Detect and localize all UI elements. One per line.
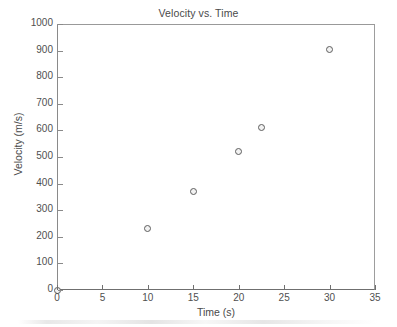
y-tick-label: 900	[13, 44, 53, 55]
y-axis-label: Velocity (m/s)	[12, 79, 24, 209]
y-tick-label: 1000	[13, 17, 53, 28]
x-tick-label: 5	[87, 292, 117, 303]
y-tick-mark	[58, 290, 63, 291]
x-tick-mark	[193, 285, 194, 290]
y-tick-label: 100	[13, 256, 53, 267]
x-tick-label: 10	[133, 292, 163, 303]
y-tick-mark	[58, 157, 63, 158]
y-tick-label: 0	[13, 283, 53, 294]
y-tick-mark	[58, 77, 63, 78]
x-tick-mark	[330, 285, 331, 290]
y-tick-mark	[58, 184, 63, 185]
scan-artifact	[18, 320, 378, 324]
plot-canvas	[57, 24, 375, 290]
data-point-marker	[326, 46, 333, 53]
y-tick-mark	[58, 24, 63, 25]
x-tick-mark	[239, 285, 240, 290]
x-axis-label: Time (s)	[57, 306, 375, 318]
x-tick-mark	[148, 285, 149, 290]
y-tick-label: 200	[13, 230, 53, 241]
y-tick-mark	[58, 210, 63, 211]
data-point-marker	[235, 148, 242, 155]
data-point-marker	[144, 225, 151, 232]
x-tick-label: 20	[224, 292, 254, 303]
y-tick-mark	[58, 51, 63, 52]
y-tick-mark	[58, 263, 63, 264]
x-tick-mark	[375, 285, 376, 290]
x-tick-label: 15	[178, 292, 208, 303]
x-tick-mark	[284, 285, 285, 290]
data-point-marker	[258, 124, 265, 131]
data-point-marker	[190, 188, 197, 195]
x-tick-label: 25	[269, 292, 299, 303]
chart-figure: Velocity vs. Time 05101520253035 0100200…	[0, 0, 397, 327]
y-tick-mark	[58, 104, 63, 105]
y-tick-mark	[58, 237, 63, 238]
x-tick-mark	[102, 285, 103, 290]
y-tick-mark	[58, 130, 63, 131]
screenshot-root: Velocity vs. Time 05101520253035 0100200…	[0, 0, 397, 327]
chart-title: Velocity vs. Time	[0, 7, 397, 19]
x-tick-label: 35	[360, 292, 390, 303]
x-tick-label: 30	[315, 292, 345, 303]
